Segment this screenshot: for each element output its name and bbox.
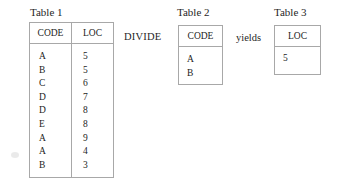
table-1-cell: D (30, 92, 71, 106)
divide-operator-label: DIVIDE (124, 31, 161, 43)
table-1-cell: B (30, 65, 71, 79)
table-1-cell: D (30, 105, 71, 119)
table-1-caption: Table 1 (30, 6, 63, 18)
table-1-cell: A (30, 133, 71, 147)
table-3-column-loc: 5 (275, 47, 320, 74)
table-1-cell: 3 (72, 160, 113, 174)
table-1-cell: A (30, 146, 71, 160)
table-3: LOC 5 (274, 25, 321, 75)
table-1-header-cell-code: CODE (30, 23, 72, 43)
table-1-cell: B (30, 160, 71, 174)
table-1-header-cell-loc: LOC (72, 23, 113, 43)
table-1: CODE LOC A B C D D E A A B 5 5 6 7 (29, 22, 114, 178)
table-1-column-loc: 5 5 6 7 8 8 9 4 3 (72, 44, 113, 177)
table-2-cell: A (179, 54, 222, 68)
table-2-column-code: A B (179, 47, 222, 84)
table-3-header-row: LOC (275, 26, 320, 47)
table-3-body: 5 (275, 47, 320, 74)
table-1-column-code: A B C D D E A A B (30, 44, 72, 177)
table-3-caption: Table 3 (274, 6, 307, 18)
table-2-header-row: CODE (179, 26, 222, 47)
table-3-cell: 5 (275, 53, 320, 67)
table-2-header-cell-code: CODE (179, 26, 222, 46)
table-1-header-row: CODE LOC (30, 23, 113, 44)
table-1-cell: 7 (72, 92, 113, 106)
table-1-cell: A (30, 51, 71, 65)
table-1-cell: 6 (72, 78, 113, 92)
table-1-cell: 4 (72, 146, 113, 160)
table-2: CODE A B (178, 25, 223, 85)
yields-operator-label: yields (236, 32, 261, 44)
table-2-caption: Table 2 (177, 6, 210, 18)
figure-canvas: Table 1 CODE LOC A B C D D E A A B 5 (0, 0, 338, 191)
table-1-body: A B C D D E A A B 5 5 6 7 8 8 9 4 3 (30, 44, 113, 177)
table-1-cell: C (30, 78, 71, 92)
table-1-cell: 9 (72, 133, 113, 147)
table-1-cell: 8 (72, 119, 113, 133)
table-1-cell: 5 (72, 51, 113, 65)
table-2-body: A B (179, 47, 222, 84)
table-1-cell: 5 (72, 65, 113, 79)
table-2-cell: B (179, 68, 222, 82)
table-3-header-cell-loc: LOC (275, 26, 320, 46)
table-1-cell: E (30, 119, 71, 133)
scan-smudge-artifact (11, 152, 19, 158)
table-1-cell: 8 (72, 105, 113, 119)
